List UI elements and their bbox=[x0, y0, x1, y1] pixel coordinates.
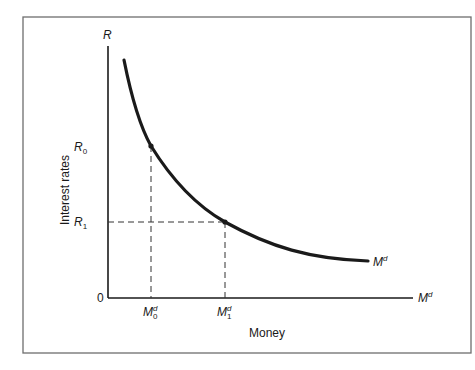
y-axis-title: Interest rates bbox=[58, 155, 72, 225]
axis-end-sup: d bbox=[428, 290, 432, 299]
r0-main: R bbox=[74, 140, 83, 154]
point-m1-r1 bbox=[222, 219, 227, 224]
r1-main: R bbox=[74, 215, 83, 229]
m1-main: M bbox=[217, 305, 227, 319]
curve-main: M bbox=[373, 255, 383, 269]
figure-frame bbox=[23, 17, 471, 353]
origin-label: 0 bbox=[97, 291, 104, 305]
x-axis-end-label: Md bbox=[418, 290, 432, 305]
point-m0-r0 bbox=[148, 143, 153, 148]
r0-tick-label: R0 bbox=[74, 140, 87, 156]
m0-tick-label: Md0 bbox=[143, 305, 157, 321]
axis-end-main: M bbox=[418, 291, 428, 305]
x-axis-title: Money bbox=[249, 326, 285, 340]
r1-sub: 1 bbox=[83, 222, 87, 231]
m1-tick-label: Md1 bbox=[217, 305, 231, 321]
money-demand-curve bbox=[124, 60, 368, 261]
m1-sub: 1 bbox=[227, 313, 231, 321]
m0-sub: 0 bbox=[153, 313, 157, 321]
curve-label: Md bbox=[373, 254, 387, 269]
curve-sup: d bbox=[383, 254, 387, 263]
m0-main: M bbox=[143, 305, 153, 319]
r1-tick-label: R1 bbox=[74, 215, 87, 231]
y-axis-symbol: R bbox=[103, 28, 112, 42]
r0-sub: 0 bbox=[83, 147, 87, 156]
